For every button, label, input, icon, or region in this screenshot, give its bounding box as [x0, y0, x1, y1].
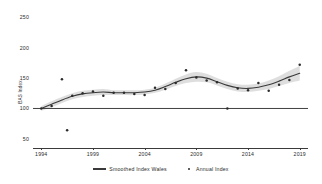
chart-figure: BAS Index 25020015010050 199419992004200…	[0, 0, 322, 184]
annual-index-point	[123, 91, 126, 94]
y-tick-label-50: 50	[23, 136, 29, 142]
annual-index-point	[92, 90, 95, 93]
x-tick-label-2009: 2009	[190, 151, 202, 157]
x-tick-label-2014: 2014	[242, 151, 254, 157]
x-tick-label-2019: 2019	[294, 151, 306, 157]
annual-index-point	[278, 84, 281, 87]
annual-index-point	[216, 81, 219, 84]
legend-label-annual: Annual Index	[196, 166, 229, 172]
annual-index-point	[236, 87, 239, 90]
x-tick-mark-1999	[93, 148, 94, 150]
x-tick-label-2004: 2004	[138, 151, 150, 157]
smoothed-index-line	[41, 73, 299, 108]
y-tick-label-100: 100	[20, 105, 29, 111]
annual-index-point	[174, 82, 177, 85]
legend-dot-icon	[188, 168, 190, 170]
x-tick-mark-2009	[196, 148, 197, 150]
legend-item-smoothed: Smoothed Index Wales	[93, 166, 166, 172]
x-tick-mark-2004	[145, 148, 146, 150]
annual-index-point	[185, 69, 188, 72]
plot-canvas	[33, 10, 308, 148]
annual-index-point	[40, 107, 43, 110]
x-axis-line	[33, 148, 308, 149]
legend-line-icon	[93, 168, 106, 169]
annual-index-point	[288, 79, 291, 82]
y-axis-title: BAS Index	[18, 80, 23, 104]
annual-index-point	[71, 94, 74, 97]
annual-index-point	[133, 93, 136, 96]
x-tick-label-1999: 1999	[87, 151, 99, 157]
chart-legend: Smoothed Index Wales Annual Index	[0, 166, 322, 172]
y-tick-label-200: 200	[20, 45, 29, 51]
x-tick-mark-2014	[248, 148, 249, 150]
y-tick-label-250: 250	[20, 14, 29, 20]
annual-index-point	[50, 105, 53, 108]
annual-index-point	[205, 79, 208, 82]
plot-area: 25020015010050	[33, 10, 308, 148]
annual-index-point	[143, 94, 146, 97]
x-tick-mark-2019	[300, 148, 301, 150]
annual-index-point	[66, 129, 69, 132]
x-tick-label-1994: 1994	[35, 151, 47, 157]
annual-index-point	[267, 90, 270, 93]
annual-index-point	[102, 94, 105, 97]
legend-label-smoothed: Smoothed Index Wales	[109, 166, 166, 172]
legend-item-annual: Annual Index	[183, 166, 229, 172]
y-tick-label-150: 150	[20, 75, 29, 81]
annual-index-point	[298, 63, 301, 66]
annual-index-point	[61, 78, 64, 81]
x-tick-mark-1994	[41, 148, 42, 150]
annual-index-point	[112, 91, 115, 94]
annual-index-point	[257, 82, 260, 85]
annual-index-point	[226, 107, 229, 110]
annual-index-point	[247, 89, 250, 92]
confidence-band	[41, 66, 299, 111]
annual-index-point	[164, 88, 167, 91]
annual-index-point	[154, 87, 157, 90]
annual-index-point	[81, 92, 84, 95]
annual-index-point	[195, 76, 198, 79]
